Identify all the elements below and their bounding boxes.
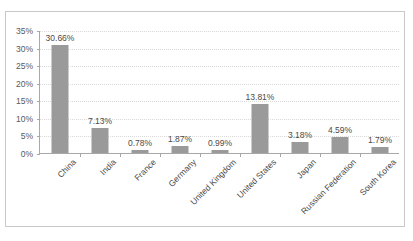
bar[interactable] — [132, 150, 149, 153]
bar[interactable] — [252, 104, 269, 153]
y-tick-label: 20% — [16, 79, 33, 89]
y-tick-label: 5% — [21, 131, 33, 141]
bar-group[interactable]: 7.13% — [80, 31, 120, 153]
bar-group[interactable]: 1.87% — [160, 31, 200, 153]
bar[interactable] — [332, 137, 349, 153]
bar-value-label: 3.18% — [288, 130, 312, 140]
bar[interactable] — [52, 45, 69, 153]
bar-group[interactable]: 30.66% — [40, 31, 80, 153]
y-tick-label: 30% — [16, 44, 33, 54]
bar[interactable] — [172, 146, 189, 153]
bar-value-label: 13.81% — [246, 92, 275, 102]
bar-group[interactable]: 0.78% — [120, 31, 160, 153]
chart-frame: 0%5%10%15%20%25%30%35% 30.66%7.13%0.78%1… — [5, 11, 405, 227]
bar-group[interactable]: 3.18% — [280, 31, 320, 153]
y-tick-label: 10% — [16, 114, 33, 124]
bar-value-label: 4.59% — [328, 125, 352, 135]
x-category-label: France — [132, 157, 158, 183]
y-tick-label: 15% — [16, 96, 33, 106]
y-axis: 0%5%10%15%20%25%30%35% — [6, 31, 37, 154]
bar[interactable] — [372, 147, 389, 153]
x-category-label: India — [98, 157, 118, 177]
bar-value-label: 7.13% — [88, 116, 112, 126]
bar-value-label: 30.66% — [46, 33, 75, 43]
bar-value-label: 0.78% — [128, 138, 152, 148]
bar[interactable] — [92, 128, 109, 153]
x-category-label: Japan — [295, 157, 318, 180]
bar-value-label: 1.87% — [168, 134, 192, 144]
bar-group[interactable]: 13.81% — [240, 31, 280, 153]
plot-area: 30.66%7.13%0.78%1.87%0.99%13.81%3.18%4.5… — [39, 31, 399, 154]
bar-group[interactable]: 0.99% — [200, 31, 240, 153]
y-tick-label: 25% — [16, 61, 33, 71]
bar[interactable] — [292, 142, 309, 153]
bar-value-label: 0.99% — [208, 138, 232, 148]
y-tick-label: 0% — [21, 149, 33, 159]
bar-group[interactable]: 4.59% — [320, 31, 360, 153]
x-category-label: China — [55, 157, 78, 180]
x-axis: ChinaIndiaFranceGermanyUnited KingdomUni… — [39, 155, 399, 227]
x-category-label: Germany — [166, 157, 198, 189]
x-category-label: United States — [235, 157, 278, 200]
bar-group[interactable]: 1.79% — [360, 31, 400, 153]
bar[interactable] — [212, 150, 229, 153]
y-tick-label: 35% — [16, 26, 33, 36]
bar-value-label: 1.79% — [368, 135, 392, 145]
x-category-label: South Korea — [358, 157, 398, 197]
